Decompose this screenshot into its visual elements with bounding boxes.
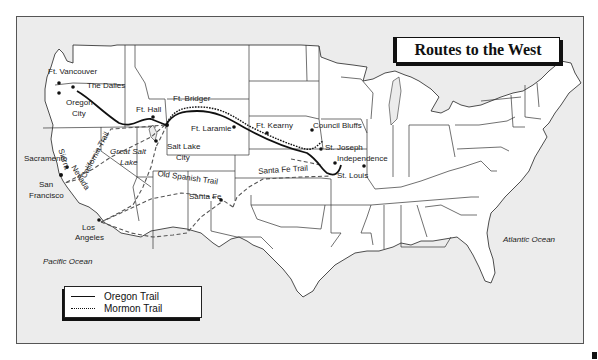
label-pacific-ocean: Pacific Ocean bbox=[43, 258, 92, 266]
label-atlantic-ocean: Atlantic Ocean bbox=[503, 236, 555, 244]
label-ft-kearny: Ft. Kearny bbox=[256, 122, 293, 130]
solid-line-swatch-icon bbox=[71, 296, 95, 297]
label-ft-bridger: Ft. Bridger bbox=[173, 95, 210, 103]
label-great-salt-lake-2: Lake bbox=[120, 159, 137, 167]
label-the-dalles: The Dalles bbox=[87, 82, 125, 90]
legend-item-mormon-trail: Mormon Trail bbox=[71, 302, 162, 314]
legend-item-oregon-trail: Oregon Trail bbox=[71, 290, 159, 302]
label-san-francisco-2: Francisco bbox=[29, 192, 64, 200]
label-salt-lake-city-1: Salt Lake bbox=[167, 143, 200, 151]
label-oregon-city-2: City bbox=[72, 110, 86, 118]
map-title-box: Routes to the West bbox=[393, 37, 560, 63]
label-ft-vancouver: Ft. Vancouver bbox=[48, 68, 97, 76]
label-great-salt-lake-1: Great Salt bbox=[110, 148, 146, 156]
us-landmass bbox=[45, 45, 581, 297]
label-los-angeles-2: Angeles bbox=[75, 234, 104, 242]
label-los-angeles-1: Los bbox=[82, 224, 95, 232]
map-title: Routes to the West bbox=[414, 41, 541, 59]
map-legend: Oregon Trail Mormon Trail bbox=[64, 286, 202, 318]
label-st-louis: St. Louis bbox=[337, 172, 368, 180]
legend-label-mormon-trail: Mormon Trail bbox=[104, 303, 162, 314]
label-ft-laramie: Ft. Laramie bbox=[191, 125, 231, 133]
legend-label-oregon-trail: Oregon Trail bbox=[104, 291, 159, 302]
corner-mark bbox=[592, 352, 597, 359]
label-oregon-city-1: Oregon bbox=[66, 99, 93, 107]
label-independence: Independence bbox=[337, 155, 388, 163]
label-ft-hall: Ft. Hall bbox=[136, 106, 161, 114]
label-st-joseph: St. Joseph bbox=[325, 144, 363, 152]
label-san-francisco-1: San bbox=[39, 181, 53, 189]
label-council-bluffs: Council Bluffs bbox=[313, 122, 362, 130]
label-santa-fe: Santa Fe bbox=[189, 193, 221, 201]
label-salt-lake-city-2: City bbox=[176, 154, 190, 162]
dotted-line-swatch-icon bbox=[71, 308, 95, 309]
